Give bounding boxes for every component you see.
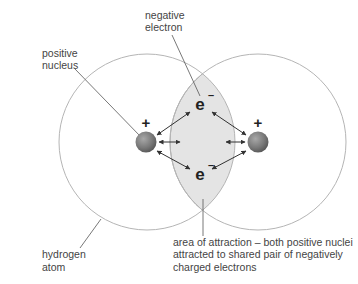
svg-text:–: – <box>208 89 214 101</box>
label-negative-electron: negative electron <box>145 9 185 33</box>
svg-text:–: – <box>208 159 214 171</box>
positive-nucleus-right <box>248 132 269 153</box>
svg-text:atom: atom <box>42 261 66 273</box>
label-positive-nucleus: positive nucleus <box>42 47 78 71</box>
positive-nucleus-left <box>136 132 157 153</box>
plus-sign-left: + <box>142 114 151 131</box>
svg-text:e: e <box>195 165 204 184</box>
label-hydrogen-atom: hydrogen atom <box>42 248 86 273</box>
svg-text:attracted to shared pair of ne: attracted to shared pair of negatively <box>173 248 344 260</box>
svg-text:electron: electron <box>145 21 183 33</box>
leader-line-positive-nucleus <box>75 69 141 137</box>
covalent-bond-diagram: + + e – e – negative electron positive n… <box>0 0 358 284</box>
label-area-of-attraction: area of attraction – both positive nucle… <box>173 236 353 273</box>
svg-text:nucleus: nucleus <box>42 59 78 71</box>
svg-text:e: e <box>195 95 204 114</box>
svg-text:hydrogen: hydrogen <box>42 248 86 260</box>
svg-text:positive: positive <box>42 47 78 59</box>
svg-text:negative: negative <box>145 9 185 21</box>
leader-line-negative-electron <box>172 35 200 96</box>
svg-text:charged electrons: charged electrons <box>173 261 256 273</box>
leader-line-hydrogen-atom <box>80 219 101 248</box>
svg-text:area of attraction – both posi: area of attraction – both positive nucle… <box>173 236 353 248</box>
plus-sign-right: + <box>254 114 263 131</box>
